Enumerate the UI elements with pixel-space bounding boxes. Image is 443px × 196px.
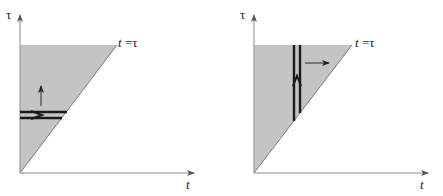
tau-axis-label: τ: [240, 7, 245, 22]
diagonal-label: t =τ: [118, 35, 137, 50]
tau-axis-label: τ: [6, 7, 11, 22]
diagonal-label-eq: =τ: [359, 35, 375, 50]
t-axis-label: t: [420, 177, 424, 192]
diagonal-label-eq: =τ: [122, 35, 138, 50]
diagonal-label: t =τ: [355, 35, 374, 50]
order-of-integration-diagram: τ t t =τ τ t t =τ: [0, 0, 443, 196]
right-panel: τ t t =τ: [240, 7, 428, 192]
t-axis-label: t: [186, 177, 190, 192]
left-panel: τ t t =τ: [6, 7, 194, 192]
